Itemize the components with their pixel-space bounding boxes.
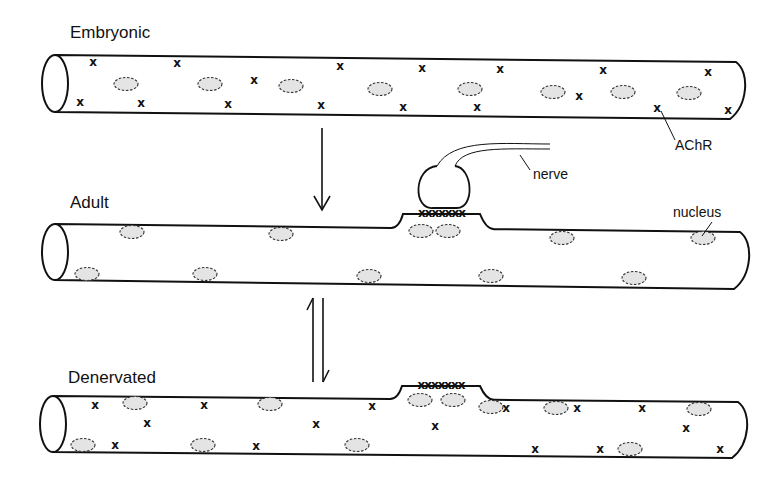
nucleus-icon: [409, 225, 433, 238]
achr-marker-icon: x: [76, 95, 84, 109]
achr-marker-icon: x: [312, 417, 320, 431]
nerve-leader-line: [520, 155, 530, 170]
axon-upper: [437, 143, 550, 166]
nucleus-icon: [458, 83, 482, 96]
achr-marker-icon: x: [368, 399, 376, 413]
fiber-denervated: xxxxxxxxxxxxxxxxxxxxxxDenervated: [40, 368, 747, 458]
nucleus-icon: [677, 87, 701, 100]
axon-lower: [455, 149, 550, 166]
nucleus-icon: [120, 226, 144, 239]
nucleus-icon: [357, 270, 381, 283]
achr-marker-icon: x: [724, 103, 732, 117]
achr-marker-icon: x: [173, 56, 181, 70]
achr-marker-icon: x: [399, 100, 407, 114]
nucleus-icon: [618, 443, 642, 456]
nucleus-icon: [691, 232, 715, 245]
achr-marker-icon: x: [682, 421, 690, 435]
achr-marker-icon: x: [143, 416, 151, 430]
nucleus-icon: [71, 439, 95, 452]
achr-marker-icon: x: [431, 419, 439, 433]
fiber-body: [53, 386, 747, 458]
achr-marker-icon: x: [653, 101, 661, 115]
achr-marker-icon: x: [137, 96, 145, 110]
achr-marker-icon: x: [111, 438, 119, 452]
achr-marker-icon: x: [531, 442, 539, 456]
nucleus-icon: [541, 86, 565, 99]
achr-marker-icon: x: [336, 59, 344, 73]
achr-marker-icon: x: [496, 62, 504, 76]
nucleus-icon: [269, 228, 293, 241]
achr-marker-icon: x: [575, 89, 583, 103]
nucleus-icon: [479, 270, 503, 283]
achr-marker-icon: x: [599, 63, 607, 77]
callout-labels: AChRnervenucleus: [520, 111, 721, 236]
embryonic-to-adult-arrow-icon: [314, 128, 330, 210]
achr-marker-icon: x: [473, 100, 481, 114]
nucleus-icon: [368, 83, 392, 96]
nucleus-icon: [436, 225, 460, 238]
nucleus-icon: [622, 272, 646, 285]
stage-label-denervated: Denervated: [68, 368, 156, 387]
nucleus-icon: [198, 78, 222, 91]
achr-marker-icon: x: [200, 398, 208, 412]
nucleus-icon: [258, 398, 282, 411]
muscle-fiber-diagram: xxxxxxxxxxxxxxxxxEmbryonicxxxxxxxAdultxx…: [0, 0, 784, 481]
nucleus-icon: [191, 439, 215, 452]
endplate-achr-cluster: xxxxxxx: [417, 378, 465, 392]
nerve-terminal: [418, 143, 550, 208]
achr-marker-icon: x: [704, 65, 712, 79]
fiber-embryonic: xxxxxxxxxxxxxxxxxEmbryonic: [42, 23, 745, 119]
achr-marker-icon: x: [596, 442, 604, 456]
stage-label-embryonic: Embryonic: [70, 23, 151, 42]
achr-marker-icon: x: [317, 98, 325, 112]
stage-label-adult: Adult: [70, 193, 109, 212]
fiber-cross-section: [42, 224, 68, 280]
fiber-cross-section: [42, 55, 68, 112]
achr-marker-icon: x: [638, 401, 646, 415]
adult-denervated-arrow-icon: [307, 298, 329, 382]
nucleus-icon: [479, 401, 503, 414]
fiber-cross-section: [40, 396, 66, 452]
nucleus-icon: [687, 403, 711, 416]
achr-marker-icon: x: [252, 439, 260, 453]
nucleus-icon: [193, 268, 217, 281]
achr-marker-icon: x: [716, 442, 724, 456]
nucleus-icon: [544, 402, 568, 415]
nucleus-icon: [123, 397, 147, 410]
achr-marker-icon: x: [250, 73, 258, 87]
nucleus-label: nucleus: [673, 204, 721, 220]
achr-marker-icon: x: [418, 61, 426, 75]
nucleus-icon: [345, 439, 369, 452]
nucleus-icon: [279, 80, 303, 93]
nucleus-icon: [550, 232, 574, 245]
achr-label: AChR: [675, 137, 712, 153]
achr-marker-icon: x: [91, 398, 99, 412]
fiber-stages: xxxxxxxxxxxxxxxxxEmbryonicxxxxxxxAdultxx…: [40, 23, 749, 458]
achr-marker-icon: x: [502, 401, 510, 415]
nucleus-icon: [611, 86, 635, 99]
achr-marker-icon: x: [89, 55, 97, 69]
nucleus-icon: [114, 78, 138, 91]
nucleus-icon: [408, 394, 432, 407]
fiber-adult: xxxxxxxAdult: [42, 193, 749, 289]
achr-marker-icon: x: [224, 97, 232, 111]
nerve-label: nerve: [533, 166, 568, 182]
nerve-terminal-bouton: [418, 166, 469, 208]
nucleus-icon: [441, 394, 465, 407]
achr-marker-icon: x: [573, 401, 581, 415]
nucleus-icon: [75, 268, 99, 281]
